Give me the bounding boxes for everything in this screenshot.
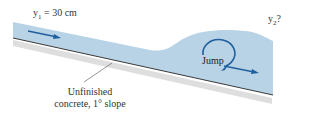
upstream-depth-label: y1 = 30 cm bbox=[33, 8, 77, 18]
downstream-depth-label: y2? bbox=[268, 14, 281, 24]
surface-note-line1: Unfinished bbox=[40, 86, 140, 98]
downstream-depth-sub: 2 bbox=[273, 19, 277, 27]
surface-note-line2: concrete, 1° slope bbox=[40, 98, 140, 110]
jump-label: Jump bbox=[202, 55, 224, 66]
upstream-depth-value: = 30 cm bbox=[42, 7, 77, 18]
leader-line bbox=[84, 63, 112, 82]
surface-note: Unfinished concrete, 1° slope bbox=[40, 86, 140, 110]
upstream-depth-sub: 1 bbox=[38, 13, 42, 21]
downstream-depth-value: ? bbox=[277, 13, 281, 24]
